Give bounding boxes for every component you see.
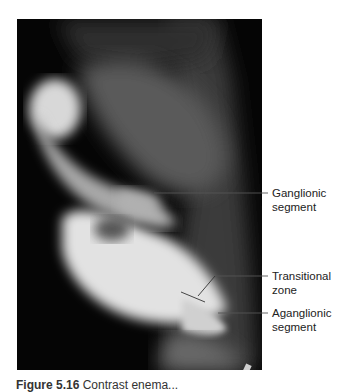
label-line: Ganglionic (272, 186, 326, 200)
label-line: Aganglionic (272, 306, 331, 320)
label-line: Transitional (272, 269, 331, 283)
label-line: segment (272, 320, 331, 334)
label-ganglionic-segment: Ganglionic segment (272, 186, 326, 214)
figure-caption: Figure 5.16 Contrast enema... (16, 378, 178, 392)
label-line: segment (272, 200, 326, 214)
radiograph-image (17, 19, 262, 370)
caption-text: Contrast enema... (79, 378, 178, 392)
caption-prefix: Figure 5.16 (16, 378, 79, 392)
label-aganglionic-segment: Aganglionic segment (272, 306, 331, 334)
label-transitional-zone: Transitional zone (272, 269, 331, 297)
xray-rendering (17, 19, 262, 370)
label-line: zone (272, 283, 331, 297)
